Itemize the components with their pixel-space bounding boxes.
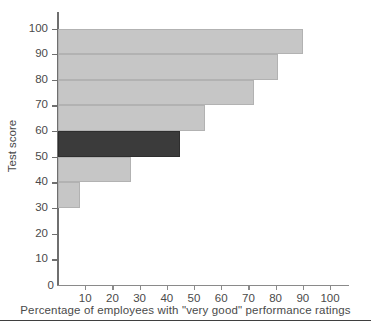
bottom-divider xyxy=(0,320,371,321)
y-tick-label-90: 90 xyxy=(14,48,48,60)
bar-50-60 xyxy=(58,131,180,157)
y-tick-label-70: 70 xyxy=(14,99,48,111)
y-tick-label-30: 30 xyxy=(14,202,48,214)
y-tick-label-80: 80 xyxy=(14,74,48,86)
y-tick-label-50: 50 xyxy=(14,151,48,163)
y-tick-10 xyxy=(52,259,57,260)
y-tick-label-100: 100 xyxy=(14,23,48,35)
x-tick-90 xyxy=(303,285,304,290)
y-tick-label-60: 60 xyxy=(14,125,48,137)
y-axis-title: Test score xyxy=(6,96,18,196)
y-tick-90 xyxy=(52,54,57,55)
y-tick-label-10: 10 xyxy=(14,253,48,265)
y-tick-30 xyxy=(52,208,57,209)
x-tick-70 xyxy=(248,285,249,290)
x-axis-title: Percentage of employees with "very good"… xyxy=(0,304,371,316)
x-tick-30 xyxy=(140,285,141,290)
y-tick-50 xyxy=(52,157,57,158)
y-tick-60 xyxy=(52,131,57,132)
x-tick-100 xyxy=(330,285,331,290)
x-axis-line xyxy=(57,285,349,287)
y-tick-100 xyxy=(52,29,57,30)
y-tick-20 xyxy=(52,234,57,235)
origin-tick-label: 0 xyxy=(40,279,54,291)
y-tick-label-20: 20 xyxy=(14,228,48,240)
bar-60-70 xyxy=(58,105,205,131)
x-tick-80 xyxy=(276,285,277,290)
chart-figure: 102030405060708090100 102030405060708090… xyxy=(0,0,371,325)
x-tick-40 xyxy=(167,285,168,290)
y-tick-80 xyxy=(52,80,57,81)
bar-90-100 xyxy=(58,29,303,55)
bar-80-90 xyxy=(58,54,278,80)
x-tick-60 xyxy=(221,285,222,290)
y-tick-label-40: 40 xyxy=(14,176,48,188)
x-tick-20 xyxy=(112,285,113,290)
y-tick-40 xyxy=(52,182,57,183)
bar-70-80 xyxy=(58,80,254,106)
x-tick-10 xyxy=(85,285,86,290)
y-tick-70 xyxy=(52,105,57,106)
bar-30-40 xyxy=(58,182,80,208)
bar-40-50 xyxy=(58,157,131,183)
x-tick-50 xyxy=(194,285,195,290)
